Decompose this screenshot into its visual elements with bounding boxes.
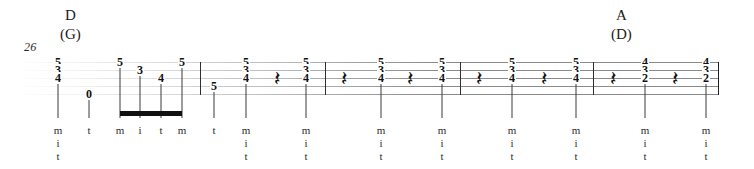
fingering-letter: m bbox=[438, 124, 447, 137]
note-stem bbox=[306, 80, 307, 118]
chord-label-a: A(D) bbox=[611, 8, 632, 42]
note-stem bbox=[442, 80, 443, 118]
fingering-letter: t bbox=[508, 150, 517, 163]
fingering-indication: mit bbox=[572, 124, 581, 163]
fingering-letter: m bbox=[242, 124, 251, 137]
quarter-rest: 𝄽 bbox=[274, 69, 280, 90]
beam bbox=[120, 111, 182, 116]
fret-number: 5 bbox=[178, 56, 186, 68]
fingering-letter: m bbox=[116, 124, 125, 137]
fingering-indication: t bbox=[212, 124, 215, 137]
fingering-indication: mit bbox=[242, 124, 251, 163]
fingering-letter: m bbox=[702, 124, 711, 137]
fingering-letter: i bbox=[641, 137, 650, 150]
fret-number: 4 bbox=[438, 72, 446, 84]
chord-label-d: D(G) bbox=[60, 8, 81, 42]
chord-alternate-name: (G) bbox=[60, 27, 81, 42]
quarter-rest: 𝄽 bbox=[610, 69, 616, 90]
note-stem bbox=[576, 80, 577, 118]
fingering-letter: t bbox=[377, 150, 386, 163]
fingering-indication: m bbox=[178, 124, 187, 137]
fingering-indication: m bbox=[116, 124, 125, 137]
fingering-letter: i bbox=[377, 137, 386, 150]
fingering-letter: m bbox=[508, 124, 517, 137]
fingering-letter: i bbox=[242, 137, 251, 150]
note-stem bbox=[120, 64, 121, 118]
fingering-letter: m bbox=[377, 124, 386, 137]
fingering-letter: t bbox=[242, 150, 251, 163]
end-barline bbox=[718, 62, 719, 95]
barline-4 bbox=[593, 62, 594, 95]
fingering-letter: i bbox=[302, 137, 311, 150]
fingering-letter: t bbox=[54, 150, 63, 163]
fret-number: 4 bbox=[302, 72, 310, 84]
fret-number: 3 bbox=[136, 64, 144, 76]
fingering-indication: mit bbox=[641, 124, 650, 163]
fingering-letter: t bbox=[641, 150, 650, 163]
fingering-indication: t bbox=[87, 124, 90, 137]
fret-number: 4 bbox=[54, 72, 62, 84]
fingering-letter: m bbox=[641, 124, 650, 137]
note-stem bbox=[512, 80, 513, 118]
fingering-letter: t bbox=[212, 124, 215, 137]
fingering-letter: i bbox=[138, 124, 141, 137]
fingering-letter: t bbox=[302, 150, 311, 163]
fingering-letter: t bbox=[87, 124, 90, 137]
barline-2 bbox=[325, 62, 326, 95]
fingering-letter: m bbox=[302, 124, 311, 137]
fingering-letter: t bbox=[438, 150, 447, 163]
fret-number: 4 bbox=[377, 72, 385, 84]
fret-number: 2 bbox=[641, 72, 649, 84]
fingering-indication: mit bbox=[302, 124, 311, 163]
fingering-indication: i bbox=[138, 124, 141, 137]
fingering-indication: mit bbox=[438, 124, 447, 163]
chord-alternate-name: (D) bbox=[611, 27, 632, 42]
measure-number: 26 bbox=[24, 40, 36, 55]
fingering-letter: m bbox=[54, 124, 63, 137]
fingering-letter: i bbox=[702, 137, 711, 150]
fingering-indication: mit bbox=[377, 124, 386, 163]
quarter-rest: 𝄽 bbox=[476, 69, 482, 90]
fingering-indication: mit bbox=[508, 124, 517, 163]
fingering-letter: i bbox=[508, 137, 517, 150]
quarter-rest: 𝄽 bbox=[541, 69, 547, 90]
quarter-rest: 𝄽 bbox=[341, 69, 347, 90]
fingering-letter: i bbox=[572, 137, 581, 150]
fret-number: 4 bbox=[157, 72, 165, 84]
note-stem bbox=[58, 80, 59, 118]
chord-name: D bbox=[60, 8, 81, 23]
fingering-letter: m bbox=[178, 124, 187, 137]
fret-number: 5 bbox=[210, 80, 218, 92]
chord-name: A bbox=[611, 8, 632, 23]
barline-1 bbox=[200, 62, 201, 95]
fret-number: 4 bbox=[508, 72, 516, 84]
fingering-letter: t bbox=[702, 150, 711, 163]
note-stem bbox=[645, 80, 646, 118]
quarter-rest: 𝄽 bbox=[672, 69, 678, 90]
fret-number: 4 bbox=[572, 72, 580, 84]
fingering-indication: t bbox=[159, 124, 162, 137]
fingering-letter: t bbox=[159, 124, 162, 137]
fingering-letter: m bbox=[572, 124, 581, 137]
tablature-sheet: 26 D(G)A(D) 534053455534𝄽534𝄽534𝄽534𝄽534… bbox=[0, 0, 754, 169]
fingering-letter: t bbox=[572, 150, 581, 163]
fret-number: 0 bbox=[85, 88, 93, 100]
fret-number: 2 bbox=[702, 72, 710, 84]
fingering-letter: i bbox=[438, 137, 447, 150]
note-stem bbox=[381, 80, 382, 118]
note-stem bbox=[246, 80, 247, 118]
quarter-rest: 𝄽 bbox=[407, 69, 413, 90]
fret-number: 5 bbox=[116, 56, 124, 68]
fingering-indication: mit bbox=[54, 124, 63, 163]
fret-number: 4 bbox=[242, 72, 250, 84]
fingering-letter: i bbox=[54, 137, 63, 150]
fingering-indication: mit bbox=[702, 124, 711, 163]
note-stem bbox=[182, 64, 183, 118]
note-stem bbox=[706, 80, 707, 118]
barline-3 bbox=[460, 62, 461, 95]
